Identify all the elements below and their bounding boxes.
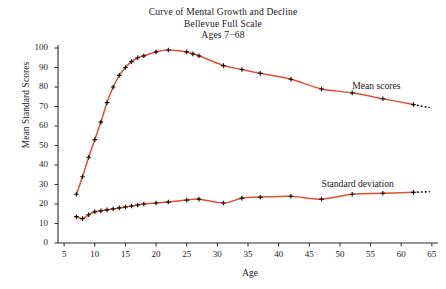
data-point <box>80 216 85 221</box>
chart-figure: Curve of Mental Growth and Decline Belle… <box>0 0 446 289</box>
y-tick-label: 100 <box>22 42 48 52</box>
data-point <box>197 197 202 202</box>
data-point <box>381 96 386 101</box>
data-point <box>319 197 324 202</box>
data-point <box>166 200 171 205</box>
data-point <box>123 205 128 210</box>
data-point <box>240 196 245 201</box>
y-tick-label: 80 <box>22 81 48 91</box>
data-point <box>350 192 355 197</box>
data-point <box>258 195 263 200</box>
data-point <box>92 210 97 215</box>
plot-area <box>0 0 446 289</box>
data-point <box>221 63 226 68</box>
x-tick-label: 50 <box>328 249 352 259</box>
y-tick-label: 30 <box>22 179 48 189</box>
series-line <box>76 50 413 194</box>
data-point <box>142 54 147 59</box>
data-point <box>74 192 79 197</box>
series-dotted-tail <box>413 192 429 193</box>
data-point <box>319 87 324 92</box>
data-point <box>99 209 104 214</box>
series-dotted-tail <box>413 105 429 108</box>
y-tick-label: 50 <box>22 140 48 150</box>
data-point <box>289 194 294 199</box>
data-point <box>80 174 85 179</box>
data-point <box>381 191 386 196</box>
x-tick-label: 45 <box>297 249 321 259</box>
data-point <box>258 71 263 76</box>
data-point <box>350 91 355 96</box>
data-point <box>117 206 122 211</box>
data-point <box>221 201 226 206</box>
x-tick-label: 5 <box>52 249 76 259</box>
data-point <box>191 52 196 57</box>
y-tick-label: 0 <box>22 237 48 247</box>
x-tick-label: 55 <box>359 249 383 259</box>
data-point <box>105 100 110 105</box>
x-tick-label: 40 <box>267 249 291 259</box>
data-point <box>86 155 91 160</box>
data-point <box>154 201 159 206</box>
y-tick-label: 10 <box>22 218 48 228</box>
series-label-2: Standard deviation <box>322 178 394 189</box>
data-point <box>129 204 134 209</box>
x-tick-label: 20 <box>144 249 168 259</box>
series-label-1: Mean scores <box>352 80 400 91</box>
data-point <box>289 77 294 82</box>
data-point <box>184 198 189 203</box>
data-point <box>240 67 245 72</box>
data-point <box>184 50 189 55</box>
data-point <box>74 214 79 219</box>
y-tick-label: 60 <box>22 120 48 130</box>
data-point <box>154 50 159 55</box>
data-point <box>111 207 116 212</box>
x-tick-label: 35 <box>236 249 260 259</box>
data-point <box>92 137 97 142</box>
data-point <box>111 85 116 90</box>
series-2-group <box>74 190 429 221</box>
series-markers <box>74 190 416 221</box>
x-tick-label: 60 <box>389 249 413 259</box>
data-point <box>411 190 416 195</box>
series-1-group <box>74 48 429 197</box>
data-point <box>166 48 171 53</box>
y-tick-label: 90 <box>22 62 48 72</box>
data-point <box>197 54 202 59</box>
data-point <box>135 203 140 208</box>
x-tick-label: 30 <box>205 249 229 259</box>
x-tick-label: 65 <box>420 249 444 259</box>
x-tick-label: 10 <box>83 249 107 259</box>
y-tick-label: 40 <box>22 159 48 169</box>
data-point <box>142 202 147 207</box>
x-tick-label: 15 <box>113 249 137 259</box>
y-tick-label: 70 <box>22 101 48 111</box>
series-line <box>76 192 413 218</box>
y-tick-label: 20 <box>22 198 48 208</box>
x-tick-label: 25 <box>175 249 199 259</box>
data-point <box>99 120 104 125</box>
data-point <box>105 208 110 213</box>
data-point <box>411 102 416 107</box>
